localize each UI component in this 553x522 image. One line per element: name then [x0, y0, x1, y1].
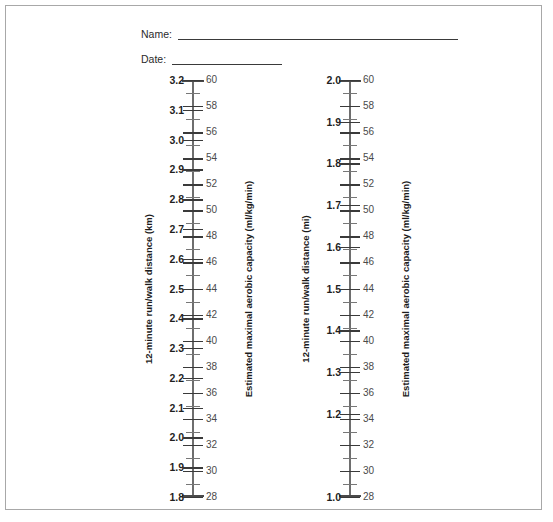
distance-tick-label: 2.5 — [169, 284, 184, 294]
distance-tick-label: 2.4 — [169, 313, 184, 323]
distance-major-tick — [183, 259, 203, 260]
vo2-tick-label: 52 — [363, 179, 374, 189]
distance-tick-label: 1.7 — [326, 200, 341, 210]
distance-tick-label: 1.9 — [169, 462, 184, 472]
vo2-tick-label: 52 — [206, 179, 217, 189]
vo2-tick-label: 38 — [363, 362, 374, 372]
minor-tick — [186, 432, 200, 433]
minor-tick — [186, 249, 200, 250]
distance-major-tick — [340, 163, 360, 164]
vo2-tick-label: 56 — [363, 127, 374, 137]
distance-major-tick — [183, 318, 203, 319]
vo2-tick-label: 54 — [206, 153, 217, 163]
major-tick — [183, 262, 203, 263]
distance-tick-label: 1.9 — [326, 117, 341, 127]
distance-major-tick — [183, 378, 203, 379]
vo2-tick-label: 40 — [363, 336, 374, 346]
minor-tick — [343, 302, 357, 303]
distance-major-tick — [183, 110, 203, 111]
minor-tick — [186, 119, 200, 120]
minor-tick — [343, 145, 357, 146]
vo2-tick-label: 48 — [363, 231, 374, 241]
name-input[interactable] — [178, 28, 458, 40]
major-tick — [183, 367, 203, 368]
distance-major-tick — [183, 408, 203, 409]
vo2-tick-label: 46 — [363, 257, 374, 267]
vo2-tick-label: 30 — [363, 466, 374, 476]
distance-tick-label: 3.0 — [169, 135, 184, 145]
minor-tick — [343, 432, 357, 433]
distance-major-tick — [183, 348, 203, 349]
distance-major-tick — [183, 437, 203, 438]
distance-major-tick — [340, 205, 360, 206]
distance-major-tick — [340, 247, 360, 248]
major-tick — [183, 419, 203, 420]
major-tick — [340, 445, 360, 446]
vo2-tick-label: 50 — [363, 205, 374, 215]
distance-tick-label: 2.7 — [169, 224, 184, 234]
distance-major-tick — [183, 140, 203, 141]
vo2-tick-label: 60 — [363, 75, 374, 85]
vo2-tick-label: 42 — [206, 310, 217, 320]
minor-tick — [343, 223, 357, 224]
vo2-tick-label: 28 — [206, 492, 217, 502]
minor-tick — [343, 197, 357, 198]
distance-tick-label: 2.0 — [326, 75, 341, 85]
distance-tick-label: 1.5 — [326, 284, 341, 294]
distance-major-tick — [183, 199, 203, 200]
major-tick — [183, 184, 203, 185]
minor-tick — [343, 484, 357, 485]
minor-tick — [186, 458, 200, 459]
left-axis-title-km: 12-minute run/walk distance (km) — [144, 214, 154, 364]
distance-tick-label: 1.8 — [326, 158, 341, 168]
nomogram-mi: 12-minute run/walk distance (mi) Estimat… — [293, 76, 413, 501]
major-tick — [183, 158, 203, 159]
vo2-tick-label: 34 — [363, 414, 374, 424]
minor-tick — [186, 197, 200, 198]
minor-tick — [186, 145, 200, 146]
major-tick — [340, 210, 360, 211]
minor-tick — [343, 458, 357, 459]
vo2-tick-label: 32 — [363, 440, 374, 450]
major-tick — [340, 419, 360, 420]
minor-tick — [186, 275, 200, 276]
name-field-row: Name: — [141, 28, 458, 40]
vo2-tick-label: 58 — [363, 101, 374, 111]
minor-tick — [343, 119, 357, 120]
major-tick — [340, 106, 360, 107]
vo2-tick-label: 60 — [206, 75, 217, 85]
vo2-tick-label: 34 — [206, 414, 217, 424]
minor-tick — [186, 302, 200, 303]
distance-tick-label: 1.4 — [326, 325, 341, 335]
vo2-tick-label: 44 — [206, 284, 217, 294]
distance-tick-label: 2.1 — [169, 403, 184, 413]
major-tick — [340, 132, 360, 133]
major-tick — [183, 471, 203, 472]
minor-tick — [186, 93, 200, 94]
minor-tick — [186, 484, 200, 485]
vo2-tick-label: 56 — [206, 127, 217, 137]
distance-major-tick — [183, 169, 203, 170]
vo2-tick-label: 30 — [206, 466, 217, 476]
minor-tick — [343, 275, 357, 276]
major-tick — [340, 393, 360, 394]
major-tick — [183, 315, 203, 316]
distance-tick-label: 2.2 — [169, 373, 184, 383]
vo2-tick-label: 36 — [363, 388, 374, 398]
minor-tick — [186, 171, 200, 172]
major-tick — [183, 341, 203, 342]
distance-tick-label: 2.9 — [169, 164, 184, 174]
worksheet-page: Name: Date: 12-minute run/walk distance … — [5, 5, 542, 510]
date-input[interactable] — [172, 53, 282, 65]
major-tick — [340, 367, 360, 368]
major-tick — [183, 132, 203, 133]
major-tick — [340, 471, 360, 472]
distance-tick-label: 2.6 — [169, 254, 184, 264]
major-tick — [183, 445, 203, 446]
minor-tick — [186, 223, 200, 224]
major-tick — [183, 210, 203, 211]
name-label: Name: — [141, 28, 172, 40]
minor-tick — [343, 406, 357, 407]
major-tick — [340, 341, 360, 342]
distance-tick-label: 2.3 — [169, 343, 184, 353]
